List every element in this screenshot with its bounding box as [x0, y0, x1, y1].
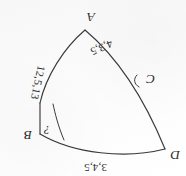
vertex-label-d: D: [170, 149, 180, 162]
vertex-label-a: A: [87, 11, 95, 24]
scanned-paper-sheet: A B C D 3,4,5 12,5,13 4,3,5 ?: [0, 0, 186, 176]
unknown-angle-question-mark: ?: [44, 124, 50, 136]
geometry-figure-drawing: [0, 0, 186, 176]
vertex-label-c: C: [146, 73, 155, 86]
angle-arc-at-b: [53, 104, 64, 140]
edge-label-top: 3,4,5: [84, 162, 107, 173]
arc-edge-d-to-b: [40, 134, 165, 154]
angle-tick-at-c: [135, 75, 139, 87]
vertex-label-b: B: [24, 129, 32, 142]
